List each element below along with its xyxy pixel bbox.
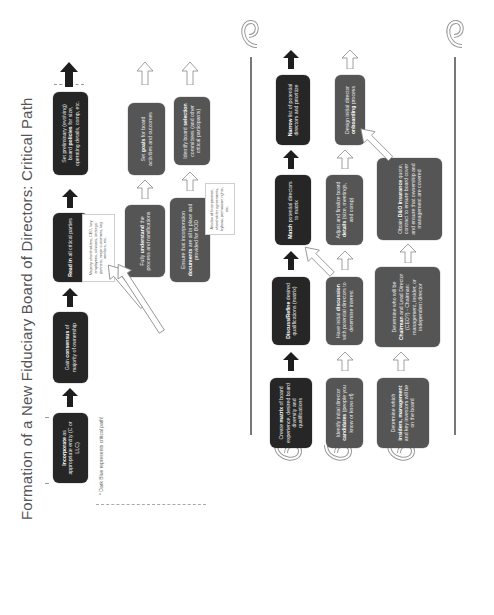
step-bold: policies [67,126,73,145]
tick-mark [45,417,49,418]
step-bold: documents [187,249,193,277]
step-text: Adjust and finalize board [335,182,341,239]
diagram-title: Formation of a New Fiduciary Board of Di… [18,97,35,520]
arrow-diagonal-outline-icon [300,240,336,280]
step-bold: D&O insurance [397,180,403,217]
step-text: potential directors to matrix [287,181,299,223]
step-determine-insiders: Determine which insiders, management and… [377,378,429,448]
step-initial-discussion: Have initial discussion with potential d… [326,277,363,345]
section-divider [250,57,252,435]
step-text: Create [278,423,284,440]
step-text: and key investors will be on the board [403,385,415,441]
step-bold: discussion [335,284,341,311]
diagram-canvas: Formation of a New Fiduciary Board of Di… [0,0,494,615]
step-text: (size, meetings, and comp) [341,183,353,222]
step-text: with potential directors to determine in… [341,282,353,339]
step-text: process [350,86,356,106]
step-bold: matrix [278,407,284,423]
section-divider [454,57,456,435]
arrow-right-icon [283,49,299,69]
step-do-insurance: Obtain D&O insurance quote, contract to … [377,158,442,240]
step-bold: consensus [64,331,70,358]
step-bold: Discuss/Refine [285,302,291,339]
step-create-matrix: Create matrix of board experience, desir… [270,378,312,448]
arrow-right-icon [283,149,299,169]
step-identify-candidates: Identify initial director candidates (pe… [326,378,363,448]
arrow-right-outline-icon [400,243,416,263]
arrow-right-outline-icon [342,49,358,69]
arrow-diagonal-outline-icon [100,255,180,340]
ensure-note: Articles of Incorporation, shareholder a… [205,183,235,235]
arrow-right-icon [283,351,299,371]
arrow-diagonal-outline-icon [355,121,395,165]
legend-note: * Dark Blue represents critical path! [98,417,104,495]
step-identify-committees: Identify board selection committees (and… [174,97,210,165]
step-text: all critical parties [67,218,73,258]
step-refine-qualifications: Discuss/Refine desired qualifications (m… [272,277,310,345]
arrow-right-outline-icon [337,351,353,371]
arrow-right-outline-icon [337,149,353,169]
arrow-right-icon [62,188,78,208]
step-bold: Read in [67,258,73,277]
arrow-right-outline-icon [393,351,409,371]
arrow-right-outline-icon [182,61,198,85]
step-text: Determine who will be [391,282,397,333]
step-text: Design initial director [344,86,350,134]
step-bold: Incorporate [61,437,67,466]
step-finalize-details: Adjust and finalize board details (size,… [326,175,363,245]
step-text: Gain [64,358,70,370]
step-bold: details [341,221,347,237]
step-bold: insiders, management [397,386,403,441]
tick-mark [45,483,49,484]
step-text: Ensure that incorporation [180,211,186,269]
cycle-arrow-icon [440,18,470,50]
arrow-right-icon [60,61,78,87]
arrow-right-outline-icon [137,179,153,199]
step-text: Identify initial director [335,389,341,438]
arrow-right-icon [62,387,78,407]
step-determine-chairman: Determine who will be Chairman and Lead … [375,267,440,347]
arrow-right-icon [62,287,78,307]
step-bold: goals [140,139,146,153]
step-text: Have initial [335,311,341,338]
step-bold: candidates [341,414,347,441]
step-bold: understand [139,225,145,253]
step-text: Identify board [182,126,188,159]
step-gain-consensus: Gain consensus of majority of ownership [53,312,88,383]
arrow-right-outline-icon [182,171,198,191]
step-incorporate: Incorporate as appropriate entity (C or … [53,413,88,483]
arrow-right-outline-icon [137,61,153,85]
step-text: Determine which [390,394,396,433]
step-bold: selection [182,103,188,126]
step-bold: Match [287,224,293,239]
step-text: Set [140,152,146,161]
step-text: Obtain [397,217,403,234]
arrow-right-icon [283,250,299,270]
step-set-policies: Set preliminary (evolving) board policie… [53,92,88,175]
dashed-guide [96,504,206,505]
step-set-goals: Set goals for board activities and outco… [128,103,165,175]
arrow-right-outline-icon [337,250,353,270]
step-narrow-list: Narrow list of potential directors and p… [276,75,310,145]
step-match-directors: Match potential directors to matrix [275,175,311,245]
cycle-arrow-icon [235,18,265,50]
step-bold: Narrow [287,118,293,136]
step-text: committees (and other critical participa… [189,105,201,157]
step-bold: Chairman [398,316,404,340]
